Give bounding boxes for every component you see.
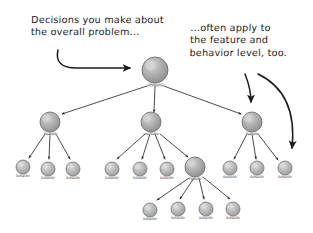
callout-arrow-left: [57, 50, 130, 68]
callout-arrow-right-long: [258, 74, 293, 148]
node-label-behavior: Behavior: [199, 217, 213, 221]
node-label-behavior: Behavior: [160, 177, 174, 181]
decisions-callout-text: Decisions you make about the overall pro…: [31, 14, 165, 39]
node-label-feature-sub: Feature: [189, 178, 201, 182]
node-label-use-case: Use Case: [144, 133, 159, 137]
node-label-behavior: Behavior: [278, 176, 292, 180]
node-label-feature-right: Feature: [246, 133, 258, 137]
diagram-canvas: Project Feature Use Case Feature Behavio…: [0, 0, 313, 233]
tree-nodes: [16, 57, 292, 220]
node-label-behavior: Behavior: [66, 177, 80, 181]
feature-behavior-callout-text: ...often apply to the feature and behavi…: [189, 22, 288, 59]
node-label-behavior: Behavior: [223, 176, 237, 180]
node-label-behavior: Behavior: [16, 175, 30, 179]
node-label-behavior: Behavior: [143, 218, 157, 222]
node-label-feature-left: Feature: [44, 133, 56, 137]
node-label-root: Project: [150, 84, 161, 88]
node-label-behavior: Behavior: [226, 217, 240, 221]
node-label-behavior: Behavior: [171, 217, 185, 221]
node-label-behavior: Behavior: [105, 177, 119, 181]
tree-connectors: [29, 85, 278, 200]
node-label-behavior: Behavior: [250, 176, 264, 180]
node-label-behavior: Behavior: [133, 177, 147, 181]
callout-arrow-right-short: [245, 74, 251, 102]
node-label-behavior: Behavior: [41, 177, 55, 181]
